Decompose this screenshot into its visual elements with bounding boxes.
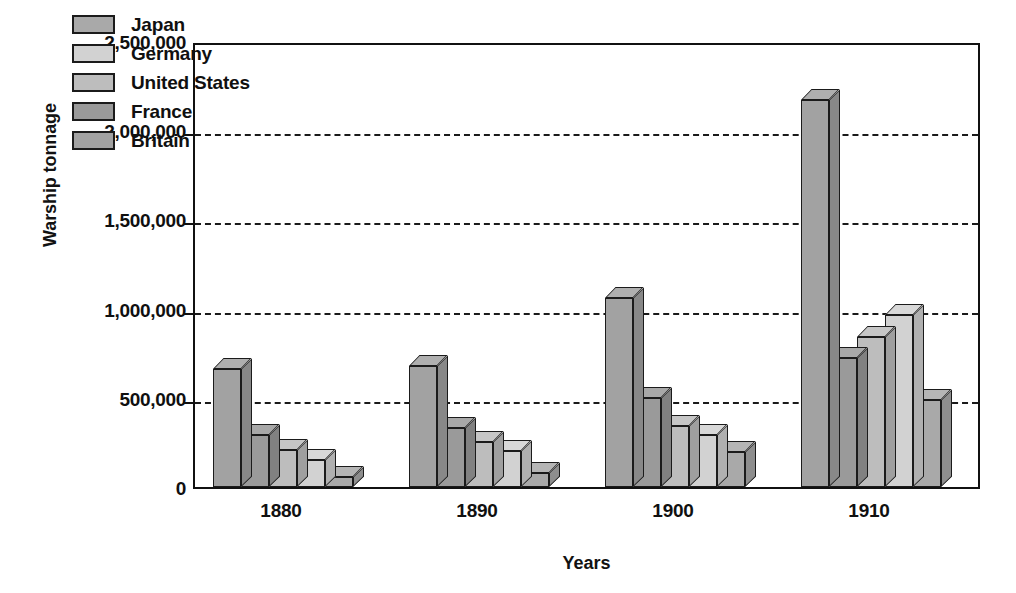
legend-label: France [131,101,192,123]
bar-front-face [801,100,829,487]
bar-side-face [689,416,700,487]
y-axis-tick-label: 1,500,000 [11,210,186,232]
x-axis-tick-label: 1900 [652,500,693,522]
bar-side-face [885,327,896,487]
chart-canvas: Warship tonnage 0500,0001,000,0001,500,0… [0,0,1016,593]
bar-side-face [829,89,840,487]
legend-item-france: France [72,99,250,124]
bar-front-face [409,366,437,487]
bar-britain-1880 [213,369,241,487]
legend-swatch [72,102,115,121]
bar-britain-1900 [605,298,633,487]
legend-swatch [72,73,115,92]
legend-item-japan: Japan [72,12,250,37]
legend-item-germany: Germany [72,41,250,66]
y-axis-tick-label: 500,000 [11,389,186,411]
x-axis-tick-label: 1880 [260,500,301,522]
bar-group [605,45,756,487]
bar-front-face [605,298,633,487]
legend-item-united-states: United States [72,70,250,95]
bar-britain-1910 [801,100,829,487]
plot-inner [195,45,978,487]
legend-item-britain: Britain [72,128,250,153]
bar-front-face [213,369,241,487]
legend-label: Britain [131,130,190,152]
bar-side-face [465,418,476,487]
legend-swatch [72,15,115,34]
bar-side-face [913,304,924,487]
bar-group [409,45,560,487]
legend-label: Japan [131,14,185,36]
x-axis-tick-label: 1910 [848,500,889,522]
y-axis-tick-label: 1,000,000 [11,300,186,322]
bar-side-face [633,287,644,487]
plot-area [193,43,980,489]
x-axis-tick-label: 1890 [456,500,497,522]
x-axis-title: Years [193,553,980,574]
legend-swatch [72,131,115,150]
bar-side-face [717,425,728,487]
legend-swatch [72,44,115,63]
bar-side-face [241,359,252,487]
bar-side-face [857,347,868,487]
legend: JapanGermanyUnited StatesFranceBritain [72,12,250,153]
bar-side-face [437,355,448,487]
y-axis-tick-label: 0 [11,478,186,500]
legend-label: Germany [131,43,212,65]
bar-britain-1890 [409,366,437,487]
bar-group [801,45,952,487]
bar-side-face [269,425,280,487]
legend-label: United States [131,72,250,94]
bar-side-face [941,390,952,487]
bar-side-face [661,387,672,487]
